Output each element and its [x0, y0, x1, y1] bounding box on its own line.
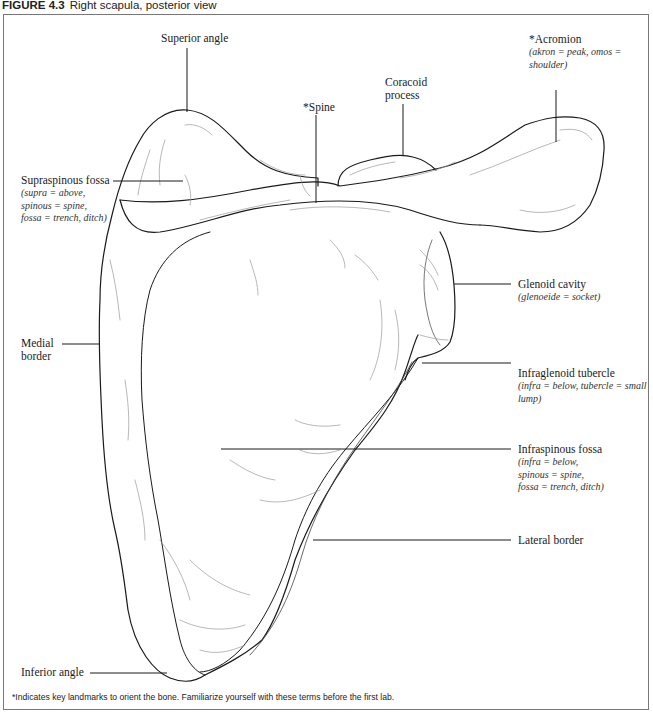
- label-glenoid-cavity: Glenoid cavity (glenoeide = socket): [518, 278, 600, 304]
- label-etymology: fossa = trench, ditch): [21, 212, 110, 225]
- glenoid-outline: [405, 232, 455, 380]
- label-infraspinous-fossa: Infraspinous fossa (infra = below, spino…: [518, 443, 604, 494]
- label-term: border: [21, 350, 54, 363]
- label-lateral-border: Lateral border: [518, 534, 583, 547]
- spine-upper-edge: [120, 117, 604, 232]
- label-term: Medial: [21, 337, 54, 350]
- glenoid-inner-edge: [424, 240, 440, 345]
- footnote: *Indicates key landmarks to orient the b…: [12, 692, 394, 702]
- label-superior-angle: Superior angle: [161, 32, 228, 45]
- label-etymology: (supra = above,: [21, 187, 110, 200]
- label-etymology: (infra = below, tubercle = small: [518, 380, 646, 393]
- label-term: Superior angle: [161, 32, 228, 45]
- label-term: Infraspinous fossa: [518, 443, 604, 456]
- label-inferior-angle: Inferior angle: [21, 666, 84, 679]
- label-term: *Acromion: [529, 33, 621, 46]
- label-term: Glenoid cavity: [518, 278, 600, 291]
- spine-lower-edge: [120, 200, 480, 232]
- label-etymology: shoulder): [529, 59, 621, 72]
- blade-inner-contour: [141, 232, 210, 675]
- coracoid-process-outline: [338, 155, 436, 186]
- label-etymology: fossa = trench, ditch): [518, 481, 604, 494]
- leader-lines: [62, 48, 556, 673]
- label-term: Supraspinous fossa: [21, 174, 110, 187]
- label-term: *Spine: [303, 101, 335, 114]
- label-term: Inferior angle: [21, 666, 84, 679]
- label-term: Coracoid: [385, 76, 427, 89]
- label-etymology: lump): [518, 393, 646, 406]
- label-etymology: spinous = spine,: [21, 200, 110, 213]
- label-medial-border: Medial border: [21, 337, 54, 363]
- label-supraspinous-fossa: Supraspinous fossa (supra = above, spino…: [21, 174, 110, 225]
- scapula-blade-outline: [99, 110, 418, 682]
- label-term: Lateral border: [518, 534, 583, 547]
- label-etymology: (akron = peak, omos =: [529, 46, 621, 59]
- label-term: Infraglenoid tubercle: [518, 367, 646, 380]
- label-infraglenoid-tubercle: Infraglenoid tubercle (infra = below, tu…: [518, 367, 646, 405]
- label-spine: *Spine: [303, 101, 335, 114]
- label-coracoid-process: Coracoid process: [385, 76, 427, 102]
- label-etymology: spinous = spine,: [518, 469, 604, 482]
- label-etymology: (glenoeide = socket): [518, 291, 600, 304]
- label-etymology: (infra = below,: [518, 456, 604, 469]
- label-acromion: *Acromion (akron = peak, omos = shoulder…: [529, 33, 621, 71]
- label-term: process: [385, 89, 427, 102]
